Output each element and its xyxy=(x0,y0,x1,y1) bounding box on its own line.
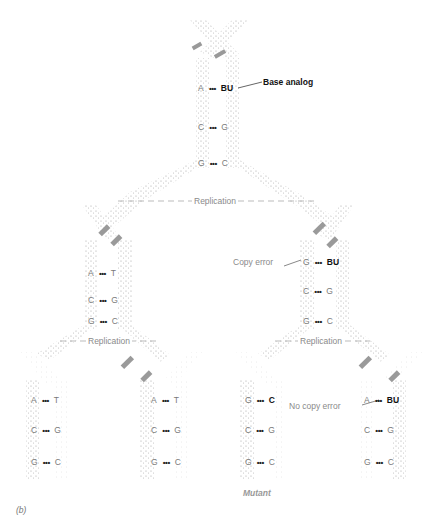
base-pair-mid-right-3: G•••C xyxy=(303,316,333,327)
base-right: C xyxy=(327,316,333,326)
base-pair-bottom3-2: C•••G xyxy=(245,425,275,436)
base-left: A xyxy=(364,395,370,405)
no-copy-error-callout: No copy error xyxy=(289,401,341,411)
panel-label: (b) xyxy=(16,505,26,515)
base-left: A xyxy=(31,395,37,405)
hydrogen-bond-dots: ••• xyxy=(210,159,217,168)
hydrogen-bond-dots: ••• xyxy=(42,426,49,435)
hydrogen-bond-dots: ••• xyxy=(315,258,322,267)
base-pair-bottom1-2: C•••G xyxy=(31,425,61,436)
base-right: T xyxy=(174,395,179,405)
base-pair-bottom1-1: A•••T xyxy=(31,395,59,406)
base-left: C xyxy=(31,425,37,435)
base-analog-callout: Base analog xyxy=(263,77,313,87)
hydrogen-bond-dots: ••• xyxy=(375,396,382,405)
dna-strands-diagram xyxy=(0,0,432,525)
base-right: BU xyxy=(221,83,234,93)
base-right: C xyxy=(388,457,394,467)
hydrogen-bond-dots: ••• xyxy=(99,296,106,305)
base-pair-bottom1-3: G•••C xyxy=(31,457,61,468)
base-pair-top-3: G•••C xyxy=(198,158,228,169)
base-right: C xyxy=(269,395,275,405)
base-pair-top-1: A•••BU xyxy=(198,83,233,94)
base-right: G xyxy=(174,425,181,435)
base-pair-bottom4-1: A•••BU xyxy=(364,395,399,406)
base-pair-mid-left-2: C•••G xyxy=(88,295,118,306)
base-pair-bottom2-3: G•••C xyxy=(151,457,181,468)
base-left: C xyxy=(88,295,94,305)
base-right: BU xyxy=(327,257,340,267)
hydrogen-bond-dots: ••• xyxy=(163,458,170,467)
hydrogen-bond-dots: ••• xyxy=(162,396,169,405)
base-left: C xyxy=(364,425,370,435)
base-right: BU xyxy=(387,395,400,405)
base-pair-mid-right-2: C•••G xyxy=(303,286,333,297)
mutant-label: Mutant xyxy=(243,488,271,498)
hydrogen-bond-dots: ••• xyxy=(256,426,263,435)
hydrogen-bond-dots: ••• xyxy=(209,84,216,93)
hydrogen-bond-dots: ••• xyxy=(209,123,216,132)
hydrogen-bond-dots: ••• xyxy=(375,426,382,435)
base-right: C xyxy=(55,457,61,467)
base-left: G xyxy=(198,158,205,168)
hydrogen-bond-dots: ••• xyxy=(314,287,321,296)
hydrogen-bond-dots: ••• xyxy=(99,269,106,278)
base-right: G xyxy=(387,425,394,435)
base-left: G xyxy=(245,457,252,467)
base-left: A xyxy=(151,395,157,405)
base-left: C xyxy=(245,425,251,435)
base-right: C xyxy=(269,457,275,467)
hydrogen-bond-dots: ••• xyxy=(257,458,264,467)
base-left: G xyxy=(303,316,310,326)
base-left: C xyxy=(151,425,157,435)
base-right: C xyxy=(222,158,228,168)
base-pair-mid-left-3: G•••C xyxy=(88,316,118,327)
base-right: G xyxy=(326,286,333,296)
base-right: T xyxy=(111,268,116,278)
copy-error-callout: Copy error xyxy=(233,257,273,267)
base-pair-bottom2-2: C•••G xyxy=(151,425,181,436)
base-pair-mid-left-1: A•••T xyxy=(88,268,116,279)
base-pair-bottom3-3: G•••C xyxy=(245,457,275,468)
base-left: A xyxy=(88,268,94,278)
base-left: G xyxy=(31,457,38,467)
hydrogen-bond-dots: ••• xyxy=(42,396,49,405)
base-pair-mid-right-1: G•••BU xyxy=(303,257,339,268)
hydrogen-bond-dots: ••• xyxy=(257,396,264,405)
base-right: G xyxy=(268,425,275,435)
base-pair-top-2: C•••G xyxy=(198,122,228,133)
base-left: A xyxy=(198,83,204,93)
base-left: C xyxy=(303,286,309,296)
base-right: G xyxy=(111,295,118,305)
base-left: G xyxy=(88,316,95,326)
hydrogen-bond-dots: ••• xyxy=(43,458,50,467)
base-pair-bottom3-1: G•••C xyxy=(245,395,275,406)
base-pair-bottom4-2: C•••G xyxy=(364,425,394,436)
hydrogen-bond-dots: ••• xyxy=(376,458,383,467)
base-left: G xyxy=(364,457,371,467)
hydrogen-bond-dots: ••• xyxy=(315,317,322,326)
hydrogen-bond-dots: ••• xyxy=(162,426,169,435)
base-left: G xyxy=(303,257,310,267)
base-right: G xyxy=(221,122,228,132)
replication-label-left: Replication xyxy=(86,336,132,346)
replication-label-top: Replication xyxy=(192,196,238,206)
base-right: C xyxy=(112,316,118,326)
base-left: G xyxy=(151,457,158,467)
base-right: G xyxy=(54,425,61,435)
base-right: C xyxy=(175,457,181,467)
hydrogen-bond-dots: ••• xyxy=(100,317,107,326)
base-left: C xyxy=(198,122,204,132)
base-pair-bottom2-1: A•••T xyxy=(151,395,179,406)
base-left: G xyxy=(245,395,252,405)
base-right: T xyxy=(54,395,59,405)
base-pair-bottom4-3: G•••C xyxy=(364,457,394,468)
replication-label-right: Replication xyxy=(298,336,344,346)
